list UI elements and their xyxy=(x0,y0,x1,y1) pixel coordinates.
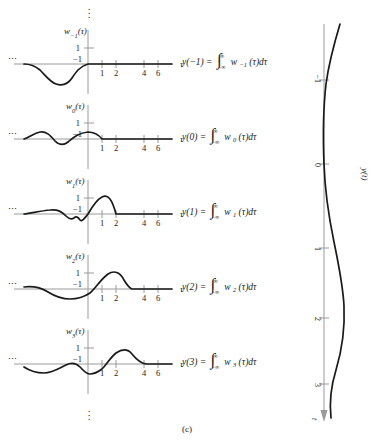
equation-y-0: y(0) = ∫ −∞ ∞ w 0 (τ)dτ xyxy=(182,123,307,147)
y-tick-label-neg: −1 xyxy=(73,129,82,139)
equation-text: y(2) = ∫ −∞ ∞ w 2 (τ)dτ xyxy=(181,275,257,296)
x-tick-label: 2 xyxy=(114,68,118,78)
t-tick-label: 3 xyxy=(313,383,322,387)
equation-text: y(0) = ∫ −∞ ∞ w 0 (τ)dτ xyxy=(181,125,257,146)
equation-text: y(3) = ∫ −∞ ∞ w 3 (τ)dτ xyxy=(181,350,257,371)
x-tick-label: 2 xyxy=(114,293,118,303)
left-ellipsis: ⋯ xyxy=(8,279,17,289)
top-ellipsis: . . . xyxy=(84,4,94,16)
t-axis-end-label: t xyxy=(310,418,319,421)
y-tick-label-pos: 1 xyxy=(76,43,80,53)
left-ellipsis: ⋯ xyxy=(8,204,17,214)
axes xyxy=(14,105,172,169)
panel-title: w2(τ) xyxy=(66,251,84,264)
figure-caption: (c) xyxy=(0,424,374,434)
axes xyxy=(14,30,172,94)
t-tick-label: 2 xyxy=(313,317,322,321)
y-tick-label-pos: 1 xyxy=(76,343,80,353)
panel-title: w0(τ) xyxy=(66,101,84,114)
y-tick-label-neg: −1 xyxy=(73,204,82,214)
y-tick-label-pos: 1 xyxy=(76,268,80,278)
curve-w-2 xyxy=(24,272,172,299)
bottom-ellipsis: . . . xyxy=(84,406,94,418)
t-tick-label: 0 xyxy=(313,163,322,167)
t-tick-label: −1 xyxy=(313,74,322,83)
y-tick-label-pos: 1 xyxy=(76,193,80,203)
equation-y-minus-1: y(−1) = ∫ −∞ ∞ w −1 (τ)dτ xyxy=(182,48,307,72)
axes xyxy=(14,330,172,394)
output-axis-title: y(t) xyxy=(360,167,370,181)
figure-convolution-panels: . . . 1 2 4 6 1 xyxy=(0,0,374,448)
panel-title: w1(τ) xyxy=(66,176,84,189)
x-tick-label: 1 xyxy=(100,368,104,378)
x-tick-label: 1 xyxy=(100,293,104,303)
x-tick-label: 6 xyxy=(156,368,160,378)
left-ellipsis: ⋯ xyxy=(8,54,17,64)
left-ellipsis: ⋯ xyxy=(8,129,17,139)
ellipsis-dot: . xyxy=(84,414,94,418)
equation-text: y(−1) = ∫ −∞ ∞ w −1 (τ)dτ xyxy=(181,50,268,71)
x-tick-label: 4 xyxy=(142,218,147,228)
x-tick-label: 2 xyxy=(114,368,118,378)
y-tick-label-neg: −1 xyxy=(73,279,82,289)
curve-w-1 xyxy=(24,196,172,220)
y-tick-label-neg: −1 xyxy=(73,354,82,364)
curve-w-0 xyxy=(24,132,172,145)
x-tick-label: 6 xyxy=(156,293,160,303)
x-tick-label: 6 xyxy=(156,143,160,153)
panel-title: w−1(τ) xyxy=(64,26,87,39)
t-axis-arrowhead xyxy=(321,410,328,422)
x-tick-label: 6 xyxy=(156,68,160,78)
x-tick-label: 6 xyxy=(156,218,160,228)
y-tick-label-neg: −1 xyxy=(73,54,82,64)
equation-text: y(1) = ∫ −∞ ∞ w 1 (τ)dτ xyxy=(181,200,257,221)
output-plot-y-of-t: −1 0 1 2 3 t y(t) xyxy=(296,18,374,430)
x-tick-label: 1 xyxy=(100,143,104,153)
x-tick-label: 4 xyxy=(142,68,147,78)
x-tick-label: 1 xyxy=(100,218,104,228)
curve-y-of-t xyxy=(323,24,344,418)
x-tick-label: 4 xyxy=(142,368,147,378)
x-tick-label: 2 xyxy=(114,218,118,228)
equation-y-2: y(2) = ∫ −∞ ∞ w 2 (τ)dτ xyxy=(182,273,307,297)
x-tick-label: 4 xyxy=(142,293,147,303)
curve-w-3 xyxy=(24,350,172,374)
ellipsis-dot: . xyxy=(84,12,94,16)
panel-title: w3(τ) xyxy=(66,326,84,339)
x-tick-label: 2 xyxy=(114,143,118,153)
equation-y-1: y(1) = ∫ −∞ ∞ w 1 (τ)dτ xyxy=(182,198,307,222)
curve-w-minus-1 xyxy=(24,64,172,85)
x-tick-label: 4 xyxy=(142,143,147,153)
equation-y-3: y(3) = ∫ −∞ ∞ w 3 (τ)dτ xyxy=(182,348,307,372)
left-ellipsis: ⋯ xyxy=(8,354,17,364)
x-tick-label: 1 xyxy=(100,68,104,78)
y-tick-label-pos: 1 xyxy=(76,118,80,128)
t-tick-label: 1 xyxy=(313,247,322,251)
